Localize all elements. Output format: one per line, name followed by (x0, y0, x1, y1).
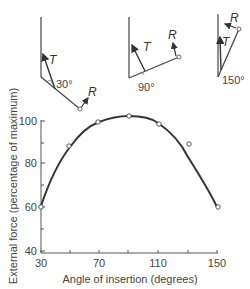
diagram-30-degrees: T 30° R (41, 17, 97, 111)
y-axis: 100 80 60 40 (19, 115, 45, 257)
tension-label: T (49, 53, 58, 67)
force-curve (41, 116, 217, 207)
rotation-label: R (168, 28, 177, 42)
data-point (96, 120, 100, 124)
x-tick-70: 70 (93, 257, 105, 269)
tension-vector-icon (220, 37, 221, 70)
rotation-label: R (230, 11, 239, 25)
tension-label: T (143, 40, 152, 54)
chart-canvas: T 30° R T R 90° T R 150° 100 80 (0, 0, 250, 289)
x-axis: 30 70 110 150 (35, 250, 226, 269)
tension-label: T (222, 35, 231, 49)
y-tick-100: 100 (19, 115, 37, 127)
x-tick-150: 150 (208, 257, 226, 269)
y-tick-60: 60 (25, 201, 37, 213)
diagram-150-degrees: T R 150° (218, 11, 245, 86)
rotation-label: R (88, 85, 97, 99)
x-tick-30: 30 (35, 257, 47, 269)
y-tick-80: 80 (25, 157, 37, 169)
data-points (39, 114, 220, 209)
angle-label-30: 30° (56, 78, 73, 90)
data-point (39, 205, 43, 209)
data-point (216, 205, 220, 209)
data-point (127, 114, 131, 118)
angle-label-150: 150° (222, 74, 245, 86)
y-tick-40: 40 (25, 245, 37, 257)
x-axis-title: Angle of insertion (degrees) (62, 273, 197, 285)
x-tick-110: 110 (149, 257, 167, 269)
diagram-90-degrees: T R 90° (129, 17, 181, 93)
angle-label-90: 90° (138, 81, 155, 93)
data-point (67, 144, 71, 148)
data-point (187, 142, 191, 146)
rotation-vector-icon (173, 43, 176, 56)
y-axis-title: External force (percentage of maximum) (7, 88, 19, 284)
data-point (157, 122, 161, 126)
